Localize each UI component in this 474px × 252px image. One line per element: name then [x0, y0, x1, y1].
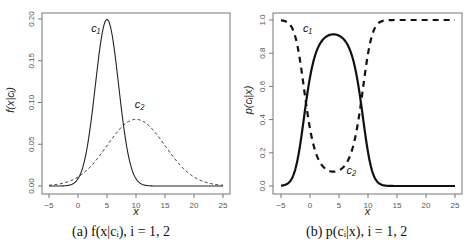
x-tick-label: 20 — [190, 201, 199, 210]
caption-b: (b) p(cᵢ|x), i = 1, 2 — [306, 224, 407, 240]
caption-a-text: (a) f(x|cᵢ), i = 1, 2 — [72, 224, 170, 239]
y-axis-title: p(cᵢ|x) — [242, 85, 254, 115]
y-axis-title: f(x|cᵢ) — [4, 87, 16, 113]
x-tick-label: 5 — [337, 201, 342, 210]
caption-a: (a) f(x|cᵢ), i = 1, 2 — [72, 224, 170, 240]
x-tick-label: 15 — [161, 201, 170, 210]
caption-b-text: (b) p(cᵢ|x), i = 1, 2 — [306, 224, 407, 239]
y-tick-label: 0.6 — [258, 80, 267, 92]
series-c1-label: c₁ — [91, 22, 101, 34]
x-tick-label: 15 — [393, 201, 402, 210]
series-c2-label: c₂ — [135, 98, 146, 110]
y-tick-label: 0.2 — [258, 147, 267, 159]
series-c1-label: c₁ — [303, 22, 313, 34]
x-tick-label: 25 — [451, 201, 460, 210]
y-tick-label: 0.20 — [27, 11, 36, 27]
x-tick-label: 0 — [308, 201, 313, 210]
y-tick-label: 0.15 — [27, 52, 36, 68]
plot-frame — [273, 13, 462, 194]
x-tick-label: 25 — [219, 201, 228, 210]
x-tick-label: 5 — [105, 201, 110, 210]
series-c2-line — [49, 119, 223, 185]
y-tick-label: 0.00 — [27, 178, 36, 194]
chart-panel-a: −505101520250.000.050.100.150.20xf(x|cᵢ)… — [4, 11, 230, 217]
x-tick-label: 0 — [76, 201, 81, 210]
y-tick-label: 0.10 — [27, 94, 36, 110]
chart-panel-b: −505101520250.00.20.40.60.81.0xp(cᵢ|x)c₁… — [242, 13, 462, 217]
series-c2-label: c₂ — [347, 164, 358, 176]
x-tick-label: −5 — [276, 201, 286, 210]
x-tick-label: 20 — [422, 201, 431, 210]
figure-canvas: −505101520250.000.050.100.150.20xf(x|cᵢ)… — [0, 0, 474, 252]
series-c1-line — [281, 34, 455, 186]
y-tick-label: 0.0 — [258, 180, 267, 192]
y-tick-label: 0.8 — [258, 47, 267, 59]
y-tick-label: 0.4 — [258, 113, 267, 125]
x-axis-title: x — [132, 205, 139, 217]
y-tick-label: 1.0 — [258, 14, 267, 26]
x-tick-label: −5 — [44, 201, 54, 210]
x-axis-title: x — [364, 205, 371, 217]
y-tick-label: 0.05 — [27, 136, 36, 152]
